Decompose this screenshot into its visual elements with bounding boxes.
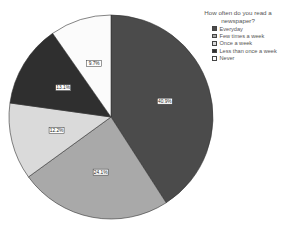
legend: How often do you read a newspaper? Every… [196,9,280,62]
legend-title-line1: How often do you read a [196,9,280,17]
legend-label: Never [220,55,235,61]
svg-text:13.1%: 13.1% [56,85,70,90]
legend-item-less-than-once-a-week: Less than once a week [212,47,280,54]
legend-title-line2: newspaper? [196,17,280,25]
svg-text:9.7%: 9.7% [89,61,101,66]
legend-label: Once a week [220,40,253,46]
slice-label: 24.1% [93,169,108,175]
legend-swatch-few-times-a-week [212,34,217,39]
legend-label: Everyday [220,26,243,32]
slice-label: 40.9% [157,98,172,104]
legend-item-few-times-a-week: Few times a week [212,32,280,39]
legend-item-never: Never [212,55,280,62]
legend-swatch-once-a-week [212,41,217,46]
svg-text:12.2%: 12.2% [50,128,64,133]
slice-label: 9.7% [87,60,102,66]
slice-label: 13.1% [56,85,71,91]
legend-title: How often do you read a newspaper? [196,9,280,25]
legend-item-once-a-week: Once a week [212,40,280,47]
legend-label: Few times a week [220,33,265,39]
legend-swatch-never [212,56,217,61]
legend-item-everyday: Everyday [212,25,280,32]
pie-slices [9,15,213,219]
svg-text:40.9%: 40.9% [158,99,172,104]
legend-swatch-everyday [212,26,217,31]
svg-text:24.1%: 24.1% [94,170,108,175]
legend-label: Less than once a week [220,48,277,54]
slice-label: 12.2% [49,128,64,134]
legend-swatch-less-than-once-a-week [212,49,217,54]
